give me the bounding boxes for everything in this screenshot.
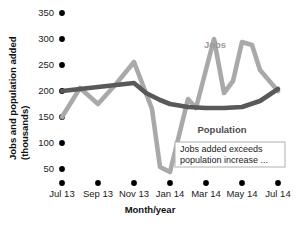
y-tick-label: 300: [38, 33, 54, 44]
series-label-population: Population: [197, 124, 246, 135]
x-tick-dot: [167, 180, 173, 186]
x-tick-dot: [203, 180, 209, 186]
y-tick-label: 250: [38, 59, 54, 70]
x-tick-label: Jul 14: [265, 188, 290, 199]
x-tick-dot: [239, 180, 245, 186]
y-axis-title-line-2: (thousands): [19, 106, 30, 160]
y-axis-tick-labels: 350 300 250 200 150 100 50: [38, 7, 54, 174]
annotation-line-1: Jobs added exceeds: [180, 144, 263, 154]
x-axis-tick-labels: Jul 13 Sep 13 Nov 13 Jan 14 Mar 14 May 1…: [49, 188, 290, 199]
x-axis-tick-marks: [59, 180, 281, 186]
x-axis-title: Month/year: [125, 204, 176, 215]
y-tick-dot: [59, 62, 65, 68]
x-tick-label: Jul 13: [49, 188, 74, 199]
annotation-line-2: population increase ...: [180, 155, 268, 165]
y-tick-label: 150: [38, 111, 54, 122]
y-tick-label: 50: [43, 163, 54, 174]
y-tick-label: 100: [38, 137, 54, 148]
x-tick-label: May 14: [226, 188, 257, 199]
y-tick-dot: [59, 140, 65, 146]
x-tick-dot: [59, 180, 65, 186]
y-tick-label: 200: [38, 85, 54, 96]
x-tick-dot: [95, 180, 101, 186]
x-tick-dot: [275, 180, 281, 186]
y-tick-label: 350: [38, 7, 54, 18]
x-tick-dot: [131, 180, 137, 186]
x-tick-label: Mar 14: [191, 188, 221, 199]
y-axis-title-line-1: Jobs and population added: [7, 36, 18, 160]
x-tick-label: Sep 13: [83, 188, 113, 199]
y-tick-dot: [59, 166, 65, 172]
x-tick-label: Jan 14: [156, 188, 185, 199]
y-tick-dot: [59, 36, 65, 42]
x-tick-label: Nov 13: [119, 188, 149, 199]
chart-container: 350 300 250 200 150 100 50 Jobs Populati…: [0, 0, 301, 228]
series-line-population: [62, 83, 278, 108]
y-tick-dot: [59, 10, 65, 16]
line-chart: 350 300 250 200 150 100 50 Jobs Populati…: [0, 0, 301, 228]
series-label-jobs: Jobs: [204, 39, 226, 50]
